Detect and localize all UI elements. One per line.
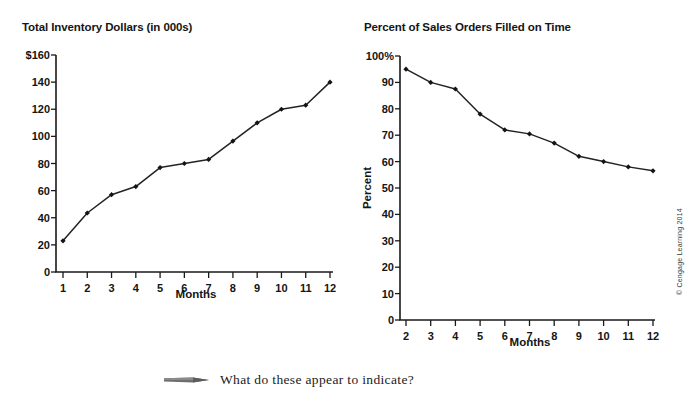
x-tick-label: 4 (133, 282, 139, 294)
caption-row: What do these appear to indicate? (163, 372, 414, 388)
copyright-credit: © Cengage Learning 2014 (676, 208, 683, 295)
y-axis-title-ontime: Percent (361, 167, 373, 209)
x-tick-label: 3 (108, 282, 114, 294)
figure-page: Total Inventory Dollars (in 000s) 020406… (0, 0, 695, 400)
y-tick-label: 60 (0, 185, 50, 197)
y-tick-label: 70 (345, 129, 394, 141)
x-axis-title-ontime: Months (510, 336, 551, 348)
y-tick-label: 100 (0, 130, 50, 142)
caption-text: What do these appear to indicate? (220, 372, 414, 388)
x-tick-label: 5 (477, 330, 483, 342)
y-tick-label: 90 (345, 76, 394, 88)
y-tick-label: 0 (0, 266, 50, 278)
x-tick-label: 2 (403, 330, 409, 342)
x-tick-label: 12 (647, 330, 659, 342)
x-axis-title-inventory: Months (176, 288, 217, 300)
x-tick-label: 6 (502, 330, 508, 342)
y-tick-label: 80 (345, 103, 394, 115)
x-tick-label: 10 (275, 282, 287, 294)
y-tick-label: $160 (0, 49, 50, 61)
plot-area-inventory (0, 0, 345, 360)
y-tick-label: 80 (0, 158, 50, 170)
x-tick-label: 9 (254, 282, 260, 294)
x-tick-label: 4 (452, 330, 458, 342)
y-tick-label: 60 (345, 156, 394, 168)
x-tick-label: 8 (230, 282, 236, 294)
y-tick-label: 140 (0, 76, 50, 88)
y-tick-label: 30 (345, 235, 394, 247)
y-tick-label: 40 (0, 212, 50, 224)
x-tick-label: 2 (84, 282, 90, 294)
y-tick-label: 0 (345, 314, 394, 326)
x-tick-label: 8 (551, 330, 557, 342)
y-tick-label: 10 (345, 288, 394, 300)
chart-panel-inventory: Total Inventory Dollars (in 000s) 020406… (0, 0, 345, 360)
x-tick-label: 11 (300, 282, 312, 294)
y-tick-label: 20 (345, 261, 394, 273)
y-tick-label: 120 (0, 103, 50, 115)
pencil-icon (163, 374, 211, 386)
x-tick-label: 1 (60, 282, 66, 294)
y-tick-label: 40 (345, 208, 394, 220)
x-tick-label: 12 (324, 282, 336, 294)
x-tick-label: 9 (576, 330, 582, 342)
chart-panel-ontime: Percent of Sales Orders Filled on Time 0… (345, 0, 665, 360)
y-tick-label: 100% (345, 50, 394, 62)
x-tick-label: 11 (622, 330, 634, 342)
x-tick-label: 10 (597, 330, 609, 342)
y-tick-label: 20 (0, 239, 50, 251)
x-tick-label: 5 (157, 282, 163, 294)
x-tick-label: 3 (428, 330, 434, 342)
